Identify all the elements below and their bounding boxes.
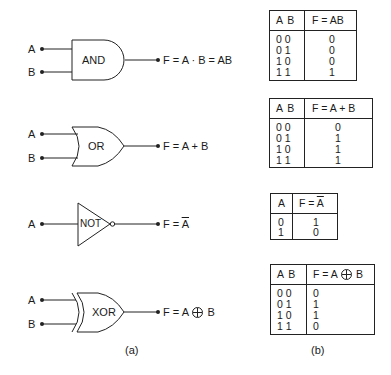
header-output-prefix: F = A: [313, 268, 337, 280]
xor-input-a-label: A: [28, 294, 35, 306]
table-row-output: 0: [313, 227, 319, 238]
table-row-inputs: 1 1: [276, 155, 291, 166]
xor-circle-plus-icon: [192, 307, 203, 318]
header-output: F = A: [299, 198, 324, 209]
or-input-a-label: A: [28, 128, 35, 140]
truth-table-not: A F = A 0 1 1 0: [270, 193, 338, 240]
and-input-a-label: A: [28, 43, 35, 55]
header-inputs: A B: [276, 103, 294, 114]
truth-table-and: A B F = AB 0 0 0 0 1 0 1 0 0 1 1 1: [269, 10, 357, 81]
truth-table-or: A B F = A + B 0 0 0 0 1 1 1 0 1 1 1 1: [269, 98, 373, 168]
header-output: F = AB: [312, 15, 344, 26]
truth-table-xor: A B F = A B 0 0 0 0 1 1 1 0 1 1 1 0: [270, 264, 375, 335]
table-row-inputs: 1: [278, 227, 284, 238]
not-gate-name: NOT: [80, 218, 101, 230]
not-output-prefix: F =: [163, 218, 182, 230]
and-output-expression: F = A · B = AB: [163, 54, 232, 66]
and-input-b-label: B: [28, 66, 35, 78]
or-output-expression: F = A + B: [163, 140, 208, 152]
header-inputs: A B: [276, 15, 294, 26]
header-inputs: A: [278, 198, 285, 209]
column-divider: [306, 265, 307, 334]
table-row-output: 0: [313, 321, 319, 332]
header-output: F = A B: [313, 269, 363, 280]
panel-a-caption: (a): [125, 344, 138, 356]
column-divider: [304, 99, 305, 167]
or-gate-name: OR: [88, 140, 105, 152]
xor-output-expression: F = A B: [163, 306, 215, 318]
header-output-suffix: B: [356, 268, 363, 280]
table-row-output: 1: [329, 67, 335, 78]
table-row-inputs: 1 1: [276, 67, 291, 78]
not-output-negated-var: A: [182, 218, 189, 230]
not-output-expression: F = A: [163, 218, 189, 230]
header-inputs: A B: [277, 269, 295, 280]
xor-output-suffix: B: [204, 306, 214, 318]
xor-input-b-label: B: [28, 318, 35, 330]
panel-b-caption: (b): [311, 344, 324, 356]
header-output-negated-var: A: [317, 197, 324, 209]
xor-output-prefix: F = A: [163, 306, 191, 318]
column-divider: [304, 11, 305, 80]
table-row-inputs: 1 1: [277, 321, 292, 332]
column-divider: [292, 194, 293, 239]
xor-circle-plus-icon: [341, 269, 352, 280]
or-input-b-label: B: [28, 152, 35, 164]
header-output-prefix: F =: [299, 197, 317, 209]
not-input-a-label: A: [28, 218, 35, 230]
header-output: F = A + B: [312, 103, 355, 114]
xor-gate-name: XOR: [92, 306, 116, 318]
table-row-output: 1: [335, 155, 341, 166]
and-gate-name: AND: [82, 54, 105, 66]
